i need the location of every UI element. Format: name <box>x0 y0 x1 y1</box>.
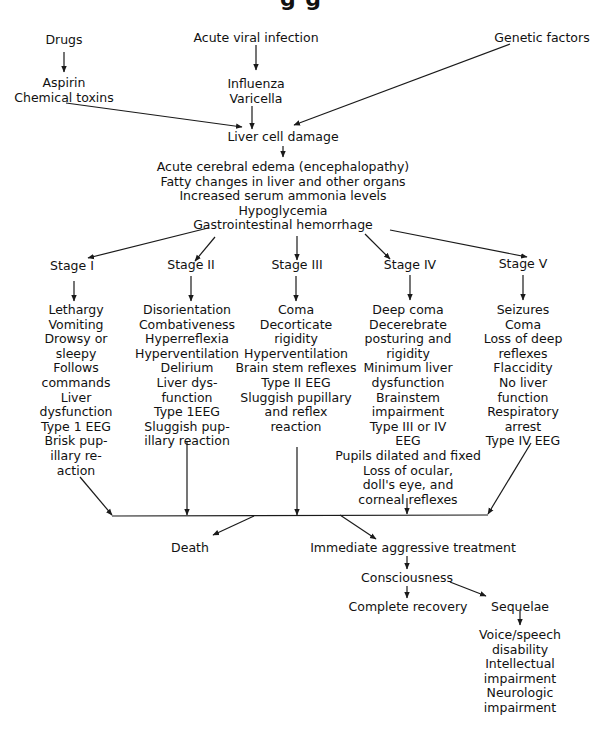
symptom: Sluggish pup- <box>135 420 239 435</box>
virus-varicella: Varicella <box>227 92 284 107</box>
sequelae-item: Voice/speech <box>479 628 561 643</box>
symptom: Hyperventilation <box>135 347 239 362</box>
virus-influenza: Influenza <box>227 77 284 92</box>
stage-1-symptoms: Lethargy Vomiting Drowsy or sleepy Follo… <box>40 303 113 478</box>
symptom: Combativeness <box>135 318 239 333</box>
symptom: Brainstem <box>335 391 481 406</box>
symptom: sleepy <box>40 347 113 362</box>
symptom: Respiratory <box>484 405 563 420</box>
symptom: Type IV EEG <box>484 434 563 449</box>
symptom: EEG <box>335 434 481 449</box>
symptom: action <box>40 464 113 479</box>
stage-4-symptoms: Deep coma Decerebrate posturing and rigi… <box>335 303 481 507</box>
outcome-treatment: Immediate aggressive treatment <box>310 541 516 556</box>
source-viral: Acute viral infection <box>193 31 318 46</box>
symptom: rigidity <box>335 347 481 362</box>
symptom: impairment <box>335 405 481 420</box>
central-effects: Acute cerebral edema (encephalopathy) Fa… <box>157 160 410 233</box>
viral-label: Acute viral infection <box>193 31 318 46</box>
symptom: Vomiting <box>40 318 113 333</box>
symptom: Lethargy <box>40 303 113 318</box>
source-drugs: Drugs <box>45 33 82 48</box>
symptom: reflexes <box>484 347 563 362</box>
symptom: Loss of ocular, <box>335 464 481 479</box>
effect-item: Hypoglycemia <box>157 204 410 219</box>
symptom: Follows <box>40 361 113 376</box>
sequelae-item: Intellectual <box>479 657 561 672</box>
outcome-death: Death <box>171 541 209 556</box>
drug-aspirin: Aspirin <box>14 76 113 91</box>
drugs-label: Drugs <box>45 33 82 48</box>
central-node: Liver cell damage <box>227 130 338 145</box>
symptom: Brisk pup- <box>40 434 113 449</box>
sequelae-item: impairment <box>479 672 561 687</box>
symptom: Deep coma <box>335 303 481 318</box>
symptom: doll's eye, and <box>335 478 481 493</box>
drug-chemical-toxins: Chemical toxins <box>14 91 113 106</box>
stage-5-symptoms: Seizures Coma Loss of deep reflexes Flac… <box>484 303 563 449</box>
symptom: Minimum liver <box>335 361 481 376</box>
symptom: Coma <box>484 318 563 333</box>
effect-item: Increased serum ammonia levels <box>157 189 410 204</box>
symptom: Type 1 EEG <box>40 420 113 435</box>
outcome-complete-recovery: Complete recovery <box>349 600 468 615</box>
symptom: Type III or IV <box>335 420 481 435</box>
source-genetic: Genetic factors <box>494 31 589 46</box>
viral-examples: Influenza Varicella <box>227 77 284 106</box>
sequelae-items: Voice/speech disability Intellectual imp… <box>479 628 561 716</box>
sequelae-item: disability <box>479 643 561 658</box>
stage-4-label: Stage IV <box>384 258 436 273</box>
symptom: Loss of deep <box>484 332 563 347</box>
symptom: Flaccidity <box>484 361 563 376</box>
symptom: Hyperreflexia <box>135 332 239 347</box>
symptom: illary reaction <box>135 434 239 449</box>
symptom: Delirium <box>135 361 239 376</box>
stage-2-symptoms: Disorientation Combativeness Hyperreflex… <box>135 303 239 449</box>
symptom: Drowsy or <box>40 332 113 347</box>
stage-3-label: Stage III <box>271 258 322 273</box>
symptom: Pupils dilated and fixed <box>335 449 481 464</box>
symptom: illary re- <box>40 449 113 464</box>
effect-item: Gastrointestinal hemorrhage <box>157 218 410 233</box>
drugs-examples: Aspirin Chemical toxins <box>14 76 113 105</box>
effect-item: Fatty changes in liver and other organs <box>157 175 410 190</box>
symptom: posturing and <box>335 332 481 347</box>
effect-item: Acute cerebral edema (encephalopathy) <box>157 160 410 175</box>
symptom: Type 1EEG <box>135 405 239 420</box>
sequelae-item: impairment <box>479 701 561 716</box>
symptom: Liver dys- <box>135 376 239 391</box>
symptom: dysfunction <box>335 376 481 391</box>
symptom: No liver <box>484 376 563 391</box>
stage-5-label: Stage V <box>499 257 548 272</box>
symptom: Seizures <box>484 303 563 318</box>
symptom: corneal reflexes <box>335 493 481 508</box>
outcome-sequelae: Sequelae <box>491 600 549 615</box>
symptom: Liver <box>40 391 113 406</box>
symptom: function <box>484 391 563 406</box>
symptom: function <box>135 391 239 406</box>
symptom: arrest <box>484 420 563 435</box>
stage-1-label: Stage I <box>50 259 94 274</box>
stage-2-label: Stage II <box>167 258 214 273</box>
liver-cell-damage: Liver cell damage <box>227 130 338 145</box>
sequelae-item: Neurologic <box>479 686 561 701</box>
symptom: Disorientation <box>135 303 239 318</box>
symptom: commands <box>40 376 113 391</box>
genetic-label: Genetic factors <box>494 31 589 46</box>
symptom: Decerebrate <box>335 318 481 333</box>
symptom: dysfunction <box>40 405 113 420</box>
outcome-consciousness: Consciousness <box>361 571 453 586</box>
